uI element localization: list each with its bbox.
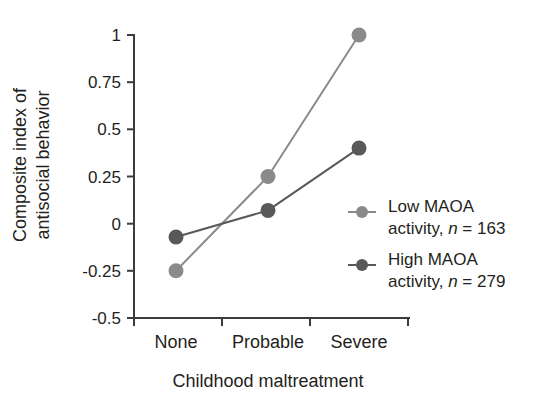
legend-label-high-line1: High MAOA	[388, 250, 478, 269]
y-tick-label-3: 0.25	[88, 168, 121, 187]
x-tick-label-severe: Severe	[330, 332, 387, 352]
legend-marker-low	[356, 206, 368, 218]
chart-figure: Composite index of antisocial behavior 1…	[0, 0, 536, 398]
plot-area: 1 0.75 0.5 0.25 0 -0.25 -0.5 None Probab…	[0, 0, 536, 398]
legend-label-low-pre: activity,	[388, 219, 448, 238]
legend-label-low-italic-n: n	[448, 219, 457, 238]
data-point-low-none	[169, 263, 184, 278]
x-axis-tick-labels: None Probable Severe	[154, 332, 387, 352]
data-point-low-severe	[352, 28, 367, 43]
y-tick-label-4: 0	[112, 215, 121, 234]
series-low-maoa-line	[176, 35, 359, 271]
x-axis-title: Childhood maltreatment	[172, 371, 363, 391]
data-point-low-probable	[261, 169, 276, 184]
legend-label-high-italic-n: n	[448, 272, 457, 291]
legend-label-high-line2: activity, n = 279	[388, 272, 505, 291]
y-tick-label-0: 1	[112, 26, 121, 45]
legend-entry-low-maoa[interactable]: Low MAOA activity, n = 163	[348, 197, 505, 238]
legend-label-low-line1: Low MAOA	[388, 197, 475, 216]
series-high-maoa	[169, 141, 367, 245]
y-tick-label-6: -0.5	[92, 309, 121, 328]
legend-entry-high-maoa[interactable]: High MAOA activity, n = 279	[348, 250, 505, 291]
x-axis-ticks	[134, 318, 408, 326]
legend-marker-high	[356, 259, 368, 271]
legend-label-high-pre: activity,	[388, 272, 448, 291]
y-axis-tick-labels: 1 0.75 0.5 0.25 0 -0.25 -0.5	[82, 26, 121, 328]
legend-label-high-post: = 279	[458, 272, 506, 291]
x-tick-label-none: None	[154, 332, 197, 352]
series-low-maoa	[169, 28, 367, 279]
x-tick-label-probable: Probable	[232, 332, 304, 352]
y-axis-ticks	[127, 35, 134, 318]
legend-label-low-line2: activity, n = 163	[388, 219, 505, 238]
data-point-high-none	[169, 230, 184, 245]
y-tick-label-1: 0.75	[88, 73, 121, 92]
series-high-maoa-line	[176, 148, 359, 237]
legend-label-low-post: = 163	[458, 219, 506, 238]
data-point-high-probable	[261, 203, 276, 218]
data-point-high-severe	[352, 141, 367, 156]
y-tick-label-5: -0.25	[82, 262, 121, 281]
legend: Low MAOA activity, n = 163 High MAOA act…	[348, 197, 505, 291]
y-tick-label-2: 0.5	[97, 120, 121, 139]
